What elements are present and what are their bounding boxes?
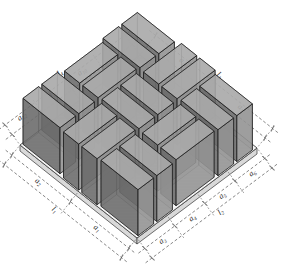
tick-mark bbox=[262, 156, 267, 160]
tick-mark bbox=[10, 152, 13, 158]
dimension-label-a2: a2 bbox=[33, 176, 44, 188]
tick-mark bbox=[120, 254, 123, 260]
extension-line bbox=[60, 193, 77, 215]
dimension-label-a3: a3 bbox=[157, 235, 168, 247]
tick-mark bbox=[3, 161, 6, 167]
extension-line bbox=[228, 172, 245, 194]
dimension-label-a5: a5 bbox=[217, 190, 228, 202]
isometric-structure-diagram: a12a11a10a9l4a8a7l3a2a1l1a3a4a5a6l2 bbox=[0, 0, 293, 264]
extension-line bbox=[198, 195, 215, 217]
tick-mark bbox=[127, 245, 130, 251]
dimension-label-a6: a6 bbox=[247, 167, 258, 179]
dimension-label-l1: l1 bbox=[50, 205, 60, 216]
tick-mark bbox=[264, 135, 267, 141]
dimension-label-l2: l2 bbox=[216, 206, 226, 217]
dimension-label-a4: a4 bbox=[187, 212, 198, 224]
tick-mark bbox=[69, 198, 72, 204]
tick-mark bbox=[271, 125, 274, 131]
tick-mark bbox=[269, 166, 274, 170]
tick-mark bbox=[232, 179, 237, 183]
figure: a12a11a10a9l4a8a7l3a2a1l1a3a4a5a6l2 bbox=[0, 0, 293, 264]
dimension-label-a1: a1 bbox=[91, 222, 102, 234]
